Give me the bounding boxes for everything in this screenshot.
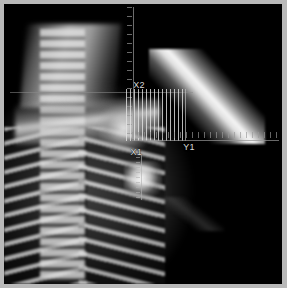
streak-artifact (157, 197, 224, 231)
horizontal-ruler-ticks (132, 132, 279, 138)
caliper-label-y1: Y1 (183, 143, 194, 152)
radiograph-image[interactable]: X2 X1 Y1 (4, 4, 282, 284)
bright-nodule (124, 161, 163, 197)
rib-cage-right (79, 127, 165, 284)
caliper-label-x2: X2 (133, 81, 144, 90)
horizontal-ruler-line[interactable] (132, 140, 279, 141)
nodule-caliper-line[interactable] (141, 152, 142, 200)
radiograph-viewer: X2 X1 Y1 (0, 0, 287, 288)
nodule-caliper-ticks (136, 152, 140, 200)
soft-tissue-field (4, 26, 210, 284)
spine-vertebrae (40, 29, 84, 281)
trachea-neck-column (21, 24, 121, 108)
rib-cage-left (4, 127, 87, 284)
caliper-label-x1: X1 (130, 148, 141, 157)
